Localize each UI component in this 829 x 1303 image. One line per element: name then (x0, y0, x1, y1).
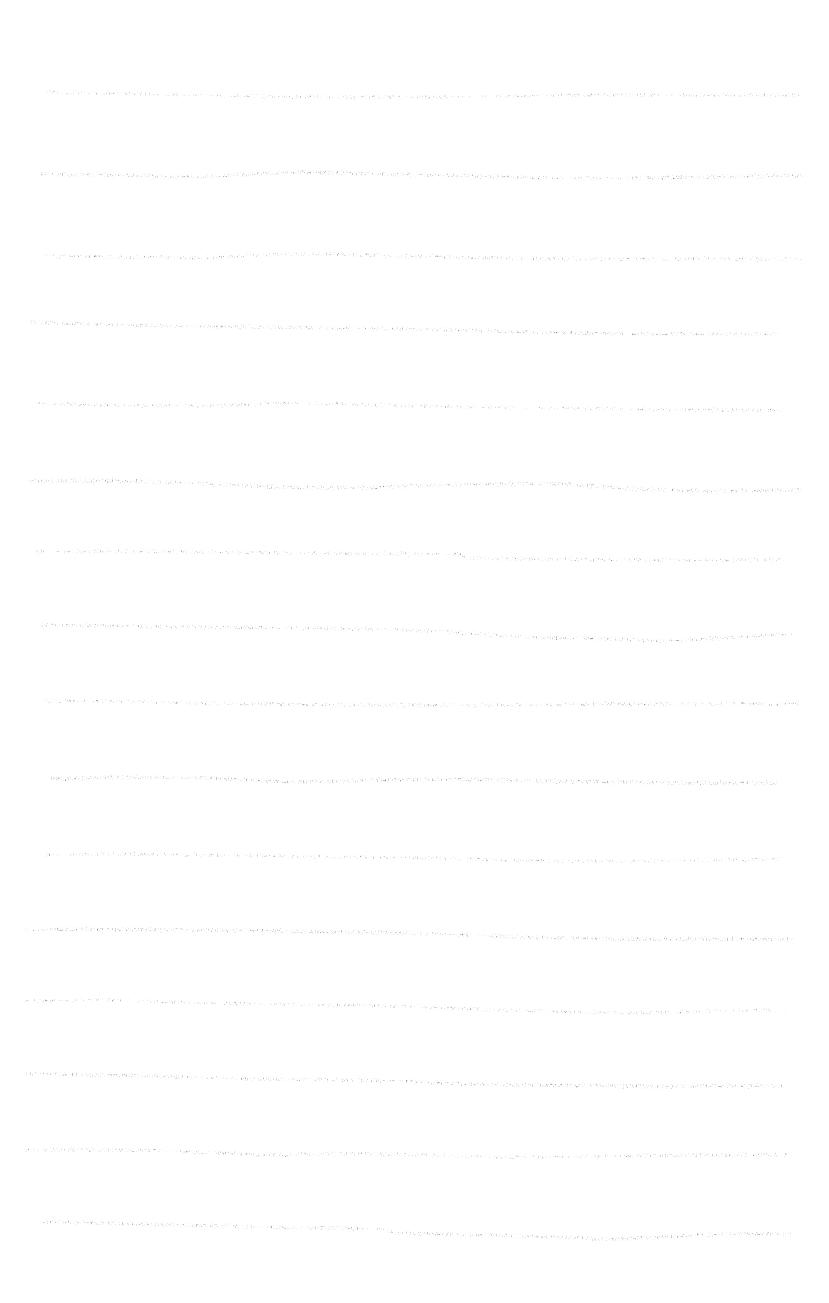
ruled-line-3 (44, 254, 800, 259)
ruled-line-14 (28, 1074, 782, 1086)
ruled-lines-group (26, 91, 802, 1239)
ruled-line-4 (30, 322, 780, 334)
ruled-line-16 (45, 1221, 790, 1239)
ruled-line-10 (50, 777, 775, 783)
ruled-line-core (45, 1222, 790, 1239)
paper-sheet (0, 0, 829, 1303)
ruled-line-15 (28, 1150, 790, 1157)
ruled-line-9 (44, 700, 800, 705)
ruled-line-5 (38, 403, 782, 410)
ruled-line-1 (48, 91, 800, 97)
ruled-line-12 (26, 929, 790, 939)
ruled-line-8 (42, 624, 790, 641)
ruled-line-11 (44, 854, 785, 861)
ruled-line-13 (26, 1000, 785, 1013)
ruled-line-6 (30, 480, 800, 491)
ruled-line-7 (36, 551, 782, 560)
ruled-line-2 (42, 172, 802, 178)
ruled-lines-canvas (0, 0, 829, 1303)
